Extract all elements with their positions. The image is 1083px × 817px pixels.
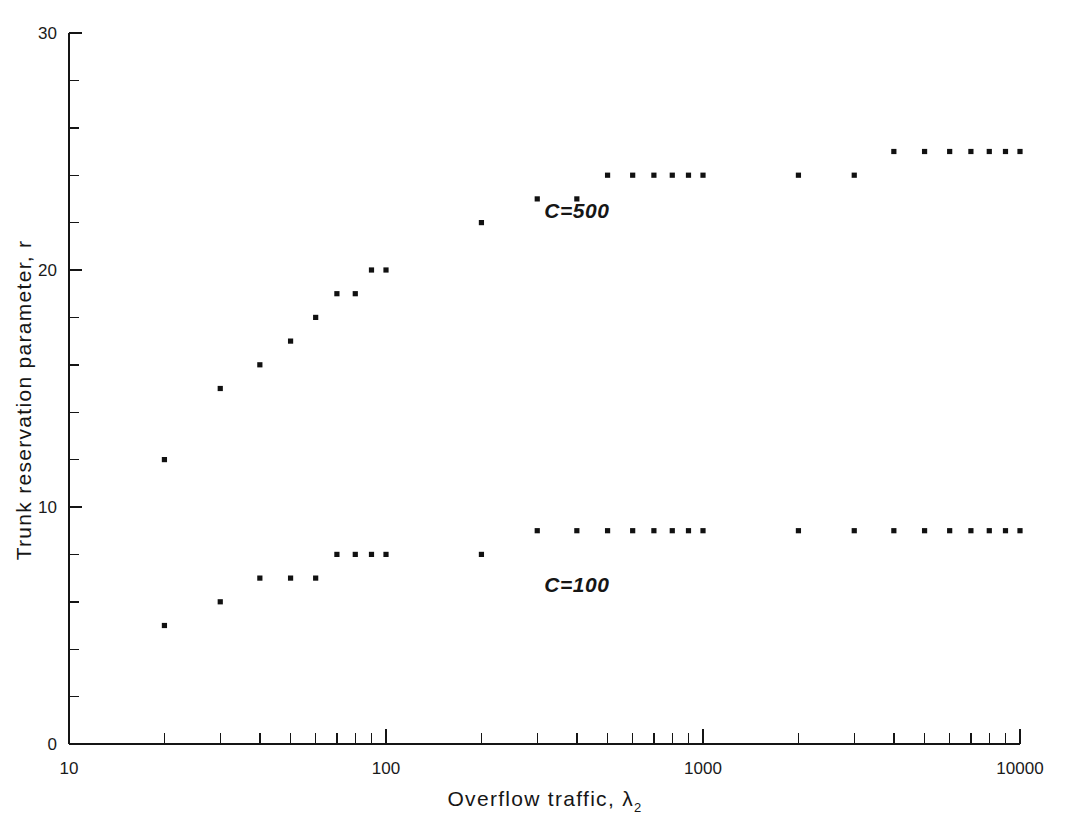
data-point [369, 552, 374, 557]
data-point [922, 149, 927, 154]
data-point [353, 291, 358, 296]
data-point [852, 173, 857, 178]
x-axis-title-subscript: 2 [634, 800, 643, 815]
data-point [535, 196, 540, 201]
x-tick-label-10: 10 [60, 759, 79, 778]
data-point [796, 528, 801, 533]
y-tick-label-0: 0 [48, 735, 57, 754]
data-point [535, 528, 540, 533]
data-point [891, 149, 896, 154]
data-point [686, 528, 691, 533]
x-axis-tick-labels: 10100100010000 [60, 759, 1044, 778]
data-point [630, 528, 635, 533]
data-point [218, 599, 223, 604]
data-point [922, 528, 927, 533]
data-point [383, 552, 388, 557]
y-tick-label-30: 30 [38, 24, 57, 43]
x-axis-ticks [69, 729, 1020, 744]
data-point [630, 173, 635, 178]
series-annotation-c-100: C=100 [544, 573, 609, 596]
data-point [700, 528, 705, 533]
data-point [353, 552, 358, 557]
data-point [288, 339, 293, 344]
series-annotations-group: C=500C=100 [544, 199, 609, 596]
data-point [605, 528, 610, 533]
data-point [947, 528, 952, 533]
data-point [987, 149, 992, 154]
data-point [369, 267, 374, 272]
x-tick-label-1000: 1000 [684, 759, 722, 778]
data-point [1017, 528, 1022, 533]
data-point [334, 291, 339, 296]
axes-group [69, 33, 1020, 744]
y-tick-label-20: 20 [38, 261, 57, 280]
data-point [162, 457, 167, 462]
data-point [313, 315, 318, 320]
data-point [796, 173, 801, 178]
data-point [891, 528, 896, 533]
data-point [162, 623, 167, 628]
data-point [968, 149, 973, 154]
data-point [605, 173, 610, 178]
data-point [334, 552, 339, 557]
y-axis-tick-labels: 0102030 [38, 24, 57, 754]
data-point [987, 528, 992, 533]
data-point [257, 362, 262, 367]
series-c-500 [162, 149, 1023, 462]
scatter-plot-canvas: 0102030 10100100010000 C=500C=100 Trunk … [0, 0, 1083, 817]
data-point [1003, 149, 1008, 154]
data-point [968, 528, 973, 533]
data-point [574, 528, 579, 533]
data-point [670, 173, 675, 178]
data-point [288, 576, 293, 581]
data-point [686, 173, 691, 178]
y-axis-ticks [69, 33, 82, 744]
data-point [670, 528, 675, 533]
data-point [1003, 528, 1008, 533]
chart-figure: 0102030 10100100010000 C=500C=100 Trunk … [0, 0, 1083, 817]
x-axis-title-main: Overflow traffic, λ [447, 787, 634, 810]
data-point [313, 576, 318, 581]
data-point [651, 173, 656, 178]
data-point [479, 552, 484, 557]
y-tick-label-10: 10 [38, 498, 57, 517]
x-axis-title: Overflow traffic, λ2 [447, 787, 642, 815]
data-point [218, 386, 223, 391]
data-point [852, 528, 857, 533]
data-point [479, 220, 484, 225]
data-point [257, 576, 262, 581]
x-tick-label-100: 100 [372, 759, 400, 778]
data-point [1017, 149, 1022, 154]
series-annotation-c-500: C=500 [544, 199, 609, 222]
data-point [651, 528, 656, 533]
x-tick-label-10000: 10000 [996, 759, 1043, 778]
data-point [700, 173, 705, 178]
data-point [947, 149, 952, 154]
data-point [383, 267, 388, 272]
y-axis-title: Trunk reservation parameter, r [12, 240, 35, 561]
